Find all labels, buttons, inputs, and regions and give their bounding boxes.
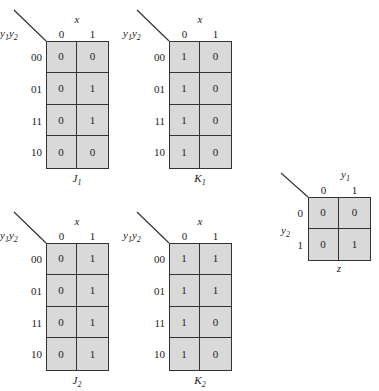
zmap-diagonal-line <box>0 0 379 391</box>
